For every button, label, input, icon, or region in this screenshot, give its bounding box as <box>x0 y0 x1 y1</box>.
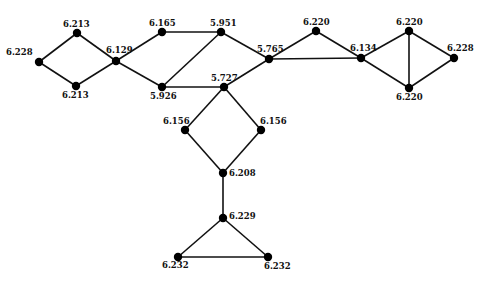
graph-node <box>35 58 43 66</box>
node-label: 6.213 <box>62 90 89 100</box>
edge <box>39 33 77 62</box>
node-label: 6.220 <box>303 17 330 27</box>
node-label: 6.129 <box>106 45 133 55</box>
node-label: 6.232 <box>264 261 291 271</box>
graph-node <box>264 253 272 261</box>
graph-node <box>357 54 365 62</box>
graph-node <box>450 54 458 62</box>
node-label: 6.156 <box>260 116 287 126</box>
edge <box>269 58 361 59</box>
node-label: 5.727 <box>211 73 238 83</box>
edge <box>185 87 224 130</box>
graph-node <box>265 55 273 63</box>
node-label: 6.165 <box>149 18 176 28</box>
edge <box>409 58 454 88</box>
graph-node <box>72 82 80 90</box>
node-label: 6.220 <box>396 17 423 27</box>
node-label: 5.926 <box>150 91 177 101</box>
graph-node <box>405 27 413 35</box>
edge <box>39 62 76 86</box>
edges-layer <box>39 31 454 257</box>
node-label: 6.208 <box>229 168 256 178</box>
graph-node <box>181 126 189 134</box>
node-label: 6.156 <box>163 116 190 126</box>
edge <box>223 218 268 257</box>
node-label: 6.213 <box>63 19 90 29</box>
node-label: 6.228 <box>447 43 474 53</box>
node-label: 6.228 <box>6 47 33 57</box>
node-label: 5.765 <box>257 44 284 54</box>
graph-node <box>158 28 166 36</box>
edge <box>223 130 261 173</box>
node-label: 5.951 <box>210 18 237 28</box>
graph-node <box>219 169 227 177</box>
node-label: 6.232 <box>162 260 189 270</box>
graph-node <box>312 27 320 35</box>
nodes-layer <box>35 27 458 261</box>
graph-node <box>220 83 228 91</box>
node-label: 6.220 <box>396 92 423 102</box>
graph-node <box>219 214 227 222</box>
edge <box>224 87 261 130</box>
edge <box>361 58 409 88</box>
node-label: 6.134 <box>350 43 377 53</box>
node-label: 6.229 <box>229 211 256 221</box>
graph-node <box>112 57 120 65</box>
edge <box>76 61 116 86</box>
graph-node <box>158 83 166 91</box>
graph-node <box>257 126 265 134</box>
edge <box>178 218 223 257</box>
graph-node <box>405 84 413 92</box>
graph-diagram: 6.2286.2136.2136.1296.1655.9515.9265.727… <box>0 0 490 282</box>
edge <box>116 61 162 87</box>
graph-node <box>73 29 81 37</box>
edge <box>185 130 223 173</box>
graph-node <box>217 28 225 36</box>
